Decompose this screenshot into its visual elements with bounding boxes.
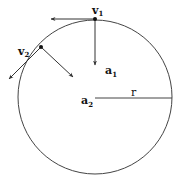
acceleration-2-label: a2 bbox=[81, 94, 93, 109]
acceleration-2-arrow bbox=[41, 47, 73, 77]
acceleration-1-label: a1 bbox=[105, 64, 117, 79]
radius-label: r bbox=[131, 86, 137, 99]
velocity-2-label: v2 bbox=[17, 45, 29, 59]
velocity-1-label: v1 bbox=[91, 4, 103, 18]
point-1-dot bbox=[93, 17, 97, 21]
point-2-dot bbox=[39, 45, 43, 49]
circular-motion-diagram: r v1 a1 v2 a2 bbox=[0, 0, 180, 179]
